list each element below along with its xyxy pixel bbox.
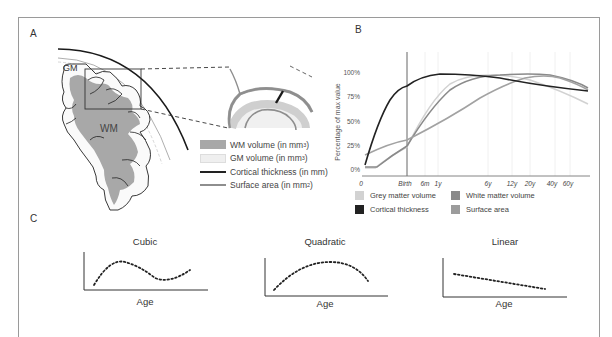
linear-xlabel: Age: [474, 298, 534, 309]
quadratic-xlabel: Age: [295, 298, 355, 309]
cubic-xlabel: Age: [115, 296, 175, 307]
cubic-curve: [94, 261, 190, 285]
linear-line: [454, 274, 545, 289]
quadratic-curve: [274, 262, 368, 290]
